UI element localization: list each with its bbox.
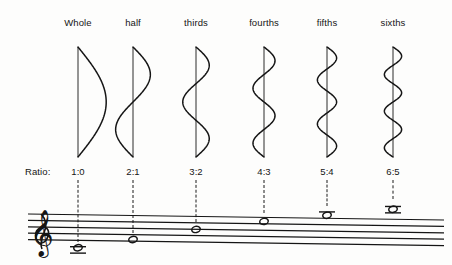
staff-line-3 [28,227,444,233]
note-group-2 [128,236,138,244]
whole-note-1 [73,244,83,252]
note-group-1 [70,244,86,253]
staff-lines-group [28,214,444,246]
whole-note-2 [128,236,138,244]
staff-line-2 [28,220,444,226]
note-group-6 [385,205,401,213]
staff-line-5 [28,240,444,246]
staff-line-4 [28,233,444,239]
harmonic-series-diagram: Wholehalfthirdsfourthsfifthssixths Ratio… [0,0,452,265]
musical-staff: 𝄞 [0,0,452,265]
staff-line-1 [28,214,444,220]
